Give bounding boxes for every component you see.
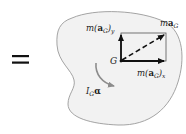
label-m-ag-x: m(aG)x [137, 68, 166, 79]
label-m-ag-y: m(aG)y [86, 23, 115, 35]
mass-center-point [120, 60, 123, 63]
rigid-body-outline [57, 12, 182, 125]
kinetic-diagram: m(aG)y maG G m(aG)x IGα [0, 0, 186, 134]
equals-sign [12, 55, 29, 64]
label-ma-g: maG [160, 18, 179, 29]
label-g: G [110, 56, 117, 66]
